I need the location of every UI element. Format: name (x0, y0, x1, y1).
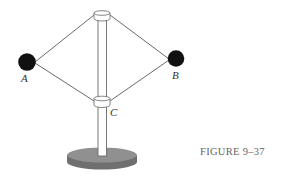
figure-caption: FIGURE 9–37 (200, 146, 265, 157)
top-collar (94, 11, 110, 21)
vertical-rod (98, 19, 107, 156)
ball-a (18, 53, 36, 71)
ball-b (168, 50, 185, 67)
label-c: C (110, 107, 117, 118)
label-a: A (21, 73, 28, 84)
collar-c (94, 96, 110, 107)
label-b: B (172, 70, 179, 81)
